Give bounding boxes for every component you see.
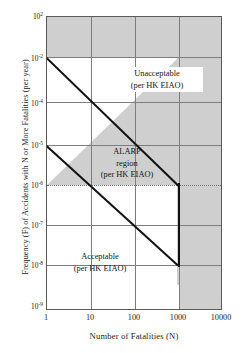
- y-tick-exponent: -8: [39, 260, 44, 266]
- gridline-y-1e-4: [47, 102, 221, 103]
- shade-right-block: [179, 17, 222, 310]
- y-tick-exponent: -4: [39, 98, 44, 104]
- x-tick-label-10: 10: [86, 313, 94, 322]
- y-tick-label-1e-8: 10-8: [19, 262, 43, 270]
- y-tick-label-1e-4: 10-4: [19, 100, 43, 108]
- x-tick-label-100: 100: [128, 313, 140, 322]
- y-tick-label-1e2: 102: [19, 13, 43, 21]
- region-label-alarp-line1: ALARP: [85, 146, 169, 158]
- y-tick-label-1e-2: 10-2: [19, 55, 43, 63]
- region-label-alarp: ALARP region (per HK EIAO): [85, 146, 169, 181]
- region-label-alarp-line3: (per HK EIAO): [85, 169, 169, 181]
- y-tick-exponent: -9: [39, 301, 44, 307]
- y-tick-exponent: -5: [39, 140, 44, 146]
- region-label-acceptable-line2: (per HK EIAO): [58, 263, 142, 275]
- region-label-unacceptable: Unacceptable (per HK EIAO): [111, 67, 203, 92]
- y-tick-exponent: -2: [39, 53, 44, 59]
- gridline-y-1e-6: [47, 185, 221, 186]
- y-tick-exponent: 2: [40, 11, 43, 17]
- fn-criterion-chart: Frequency (F) of Accidents with N or Mor…: [0, 0, 242, 353]
- x-tick-label-1000: 1000: [170, 313, 186, 322]
- y-tick-exponent: -6: [39, 180, 44, 186]
- cutoff-line-n1000: [178, 183, 180, 267]
- gridline-y-1e-2: [47, 57, 221, 58]
- region-label-acceptable-line1: Acceptable: [58, 251, 142, 263]
- x-tick-label-10000: 10000: [211, 313, 231, 322]
- y-tick-label-1e-9: 10-9: [19, 303, 43, 311]
- plot-area: Unacceptable (per HK EIAO) ALARP region …: [46, 16, 222, 310]
- x-axis-title: Number of Fatalities (N): [46, 331, 222, 341]
- region-label-unacceptable-line1: Unacceptable: [115, 68, 199, 80]
- y-tick-label-1e-6: 10-6: [19, 182, 43, 190]
- region-label-acceptable: Acceptable (per HK EIAO): [58, 251, 142, 274]
- region-label-alarp-line2: region: [85, 158, 169, 170]
- y-tick-exponent: -7: [39, 220, 44, 226]
- region-label-unacceptable-line2: (per HK EIAO): [115, 80, 199, 92]
- y-tick-label-1e-7: 10-7: [19, 222, 43, 230]
- x-tick-label-1: 1: [44, 313, 48, 322]
- y-tick-label-1e-5: 10-5: [19, 142, 43, 150]
